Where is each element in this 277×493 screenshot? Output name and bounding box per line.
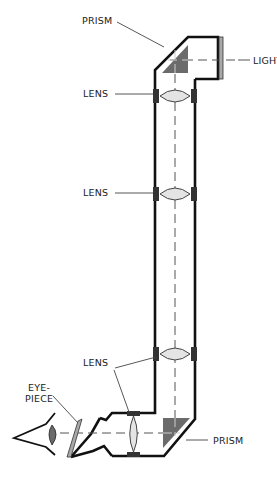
upper-lens-mount-right xyxy=(191,89,197,103)
periscope-diagram: PRISM LIGHT LENS LENS LENS EYE- PIECE PR… xyxy=(0,0,277,493)
label-eyepiece-line1: EYE- xyxy=(28,382,50,393)
label-light: LIGHT xyxy=(253,55,277,66)
label-prism-bottom: PRISM xyxy=(213,435,243,446)
label-prism-top: PRISM xyxy=(82,15,112,26)
middle-lens-mount-left xyxy=(153,187,159,201)
upper-lens xyxy=(160,90,190,102)
lower-lens-mount-left xyxy=(153,347,159,361)
prism-top-leader xyxy=(117,22,164,47)
lens-3-leader-to-eyepiece-lens xyxy=(114,370,129,412)
label-lens-3: LENS xyxy=(83,357,108,368)
label-lens-2: LENS xyxy=(83,187,108,198)
upper-lens-mount-left xyxy=(153,89,159,103)
middle-lens-mount-right xyxy=(191,187,197,201)
lens-3-leader-to-lower-lens xyxy=(115,357,156,368)
label-lens-1: LENS xyxy=(83,88,108,99)
eyepiece-lens xyxy=(130,416,138,452)
label-eyepiece-line2: PIECE xyxy=(25,393,53,404)
eyepiece-leader xyxy=(53,396,78,423)
lower-lens-mount-right xyxy=(191,347,197,361)
lower-lens xyxy=(160,348,190,360)
middle-lens xyxy=(160,188,190,200)
light-window xyxy=(219,37,223,79)
eye-lens-icon xyxy=(49,425,56,445)
